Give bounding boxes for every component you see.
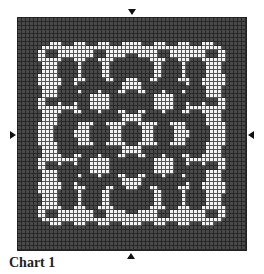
chart-caption: Chart 1: [9, 255, 55, 271]
stitch-chart-grid: [17, 17, 247, 251]
center-marker-left: [10, 131, 16, 139]
center-marker-bottom: [127, 253, 135, 259]
center-marker-top: [128, 9, 136, 15]
chart-cell: [242, 246, 246, 250]
center-marker-right: [248, 131, 254, 139]
